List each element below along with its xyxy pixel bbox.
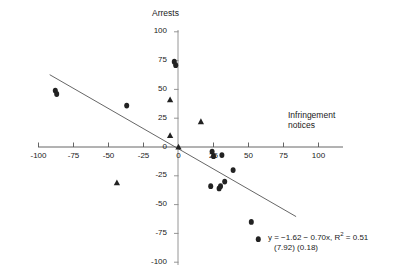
x-axis-title-line2: notices — [288, 120, 315, 130]
data-point-diamond — [173, 62, 178, 68]
data-point-triangle — [198, 118, 204, 124]
data-point-diamond — [249, 219, 254, 225]
data-point-triangle — [167, 96, 173, 102]
scatter-chart: Arrests Infringementnotices -100-75-50-2… — [0, 0, 413, 278]
x-tick-label: -100 — [26, 151, 52, 160]
x-tick-label: 50 — [236, 151, 262, 160]
data-point-triangle — [167, 132, 173, 138]
y-tick-label: -50 — [141, 199, 167, 208]
equation-prefix: y = −1.62 − 0.70x, R — [268, 233, 340, 242]
regression-line — [50, 75, 296, 217]
data-point-diamond — [222, 179, 227, 185]
x-axis-title-line1: Infringement — [288, 110, 335, 120]
x-tick-label: -75 — [61, 151, 87, 160]
y-tick-label: -25 — [141, 170, 167, 179]
regression-annotation: y = −1.62 − 0.70x, R2 = 0.51 (7.92) (0.1… — [268, 229, 368, 253]
data-point-diamond — [54, 91, 59, 97]
x-tick-label: -25 — [131, 151, 157, 160]
y-tick-label: 50 — [141, 84, 167, 93]
equation-suffix: = 0.51 — [344, 233, 369, 242]
y-tick-label: -100 — [141, 257, 167, 266]
data-point-diamond — [124, 103, 129, 109]
x-axis-title: Infringementnotices — [288, 110, 335, 130]
x-tick-label: 75 — [271, 151, 297, 160]
std-errors: (7.92) (0.18) — [268, 243, 368, 253]
data-point-diamond — [208, 183, 213, 189]
y-axis-title: Arrests — [152, 8, 179, 18]
x-tick-label: -50 — [96, 151, 122, 160]
y-tick-label: 75 — [141, 55, 167, 64]
data-point-triangle — [114, 179, 120, 185]
x-tick-label: 25 — [201, 151, 227, 160]
y-tick-label: -75 — [141, 228, 167, 237]
y-tick-label: 25 — [141, 113, 167, 122]
data-point-diamond — [218, 183, 223, 189]
x-tick-label: 100 — [306, 151, 332, 160]
data-point-diamond — [231, 167, 236, 173]
regression-equation: y = −1.62 − 0.70x, R2 = 0.51 — [268, 233, 368, 242]
data-point-diamond — [256, 236, 261, 242]
y-tick-label: 100 — [141, 26, 167, 35]
x-tick-label: 0 — [166, 151, 192, 160]
trendline — [50, 75, 296, 217]
y-tick-label: 0 — [141, 142, 167, 151]
